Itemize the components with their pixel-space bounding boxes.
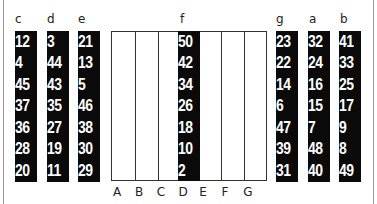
strip-number: 29: [78, 160, 99, 181]
strip-number: 40: [308, 160, 329, 181]
column-label-a: a: [309, 12, 316, 26]
strip-number: 26: [178, 95, 199, 116]
grid-divider: [221, 32, 222, 180]
column-label-g: g: [276, 12, 284, 26]
strip-number: 48: [308, 138, 329, 159]
strip-number: 30: [78, 138, 99, 159]
strip-number: 45: [15, 74, 36, 95]
strip-number: 5: [78, 74, 99, 95]
grid-column-label-f: F: [219, 185, 231, 199]
column-label-d: d: [47, 12, 55, 26]
strip-number: 43: [47, 74, 68, 95]
strip-number: 14: [276, 74, 297, 95]
strip-number: 37: [15, 95, 36, 116]
strip-number: 17: [339, 95, 360, 116]
strip-number: 22: [276, 52, 297, 73]
strip-number: 31: [276, 160, 297, 181]
strip-number: 34: [178, 74, 199, 95]
strip-number: 10: [178, 138, 199, 159]
number-strip-a: 32 24 16 15 7 48 40: [308, 31, 330, 182]
strip-number: 38: [78, 117, 99, 138]
strip-number: 28: [15, 138, 36, 159]
grid-column-label-e: E: [197, 185, 209, 199]
number-strip-g: 23 22 14 6 47 39 31: [276, 31, 298, 182]
strip-number: 46: [78, 95, 99, 116]
strip-number: 21: [78, 31, 99, 52]
strip-number: 13: [78, 52, 99, 73]
number-strip-c: 12 4 45 37 36 28 20: [15, 31, 37, 182]
strip-number: 7: [308, 117, 329, 138]
grid-column-label-a: A: [111, 185, 123, 199]
grid-column-label-g: G: [242, 185, 254, 199]
strip-number: 39: [276, 138, 297, 159]
strip-number: 18: [178, 117, 199, 138]
column-label-e: e: [78, 12, 85, 26]
strip-number: 8: [339, 138, 360, 159]
strip-number: 50: [178, 31, 199, 52]
grid-column-label-b: B: [133, 185, 145, 199]
number-strip-b: 41 33 25 17 9 8 49: [339, 31, 361, 182]
strip-number: 42: [178, 52, 199, 73]
column-label-c: c: [15, 12, 22, 26]
strip-number: 11: [47, 160, 68, 181]
grid-divider: [135, 32, 136, 180]
strip-number: 9: [339, 117, 360, 138]
strip-number: 44: [47, 52, 68, 73]
grid-column-label-d: D: [177, 185, 189, 199]
strip-number: 12: [15, 31, 36, 52]
strip-number: 36: [15, 117, 36, 138]
grid-divider: [158, 32, 159, 180]
strip-number: 24: [308, 52, 329, 73]
grid-divider: [244, 32, 245, 180]
strip-number: 16: [308, 74, 329, 95]
number-strip-f: 50 42 34 26 18 10 2: [178, 31, 200, 181]
strip-number: 27: [47, 117, 68, 138]
strip-number: 25: [339, 74, 360, 95]
strip-number: 49: [339, 160, 360, 181]
number-strip-e: 21 13 5 46 38 30 29: [78, 31, 100, 182]
strip-number: 3: [47, 31, 68, 52]
grid-column-label-c: C: [155, 185, 167, 199]
strip-number: 4: [15, 52, 36, 73]
number-strip-d: 3 44 43 35 27 19 11: [47, 31, 69, 182]
column-label-b: b: [340, 12, 348, 26]
column-label-f: f: [180, 12, 184, 26]
strip-number: 19: [47, 138, 68, 159]
strip-number: 6: [276, 95, 297, 116]
strip-number: 32: [308, 31, 329, 52]
strip-number: 23: [276, 31, 297, 52]
strip-number: 20: [15, 160, 36, 181]
strip-number: 35: [47, 95, 68, 116]
strip-number: 2: [178, 160, 199, 181]
strip-number: 47: [276, 117, 297, 138]
strip-number: 41: [339, 31, 360, 52]
strip-number: 15: [308, 95, 329, 116]
strip-number: 33: [339, 52, 360, 73]
